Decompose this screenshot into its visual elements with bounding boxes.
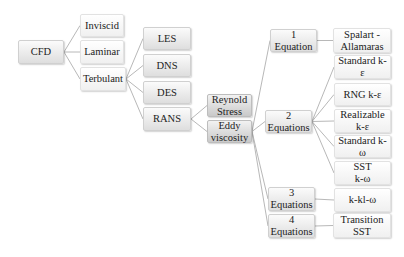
connector-eq3-kklw <box>315 199 334 200</box>
connector-eq2-real_ke <box>312 121 334 122</box>
node-dns: DNS <box>143 54 191 77</box>
node-terbulant: Terbulant <box>80 67 126 91</box>
connector-eddy_viscosity-eq4 <box>252 132 268 227</box>
connector-eq2-std_kw <box>312 122 334 147</box>
connector-terbulant-les <box>126 39 143 80</box>
node-standard-k-omega: Standard k-ω <box>334 135 391 158</box>
node-les: LES <box>143 27 191 50</box>
connector-rans-eddy_viscosity <box>191 119 207 132</box>
node-rans: RANS <box>143 107 191 131</box>
node-reynold-stress: Reynold Stress <box>207 94 252 117</box>
node-laminar: Laminar <box>80 40 124 64</box>
connector-eq4-trans_sst <box>315 226 333 227</box>
node-realizable-k-epsilon: Realizable k-ε <box>334 109 391 133</box>
connector-rans-reynold_stress <box>191 106 207 120</box>
node-eddy-viscosity: Eddy viscosity <box>207 120 252 143</box>
connector-cfd-inviscid <box>64 26 80 53</box>
connector-eq2-rng_ke <box>312 95 334 122</box>
node-transition-sst: Transition SST <box>333 213 391 238</box>
node-1-equation: 1 Equation <box>270 29 317 52</box>
node-4-equations: 4 Equations <box>268 214 315 238</box>
connector-cfd-terbulant <box>64 52 80 79</box>
node-cfd: CFD <box>18 40 64 64</box>
connector-eq2-sst_kw <box>312 122 334 174</box>
node-des: DES <box>143 81 191 104</box>
cfd-model-tree: CFD Inviscid Laminar Terbulant LES DNS D… <box>0 0 404 257</box>
node-rng-k-epsilon: RNG k-ε <box>334 83 391 106</box>
connector-eddy_viscosity-eq3 <box>252 132 268 200</box>
node-2-equations: 2 Equations <box>265 110 312 133</box>
connector-terbulant-rans <box>126 79 143 119</box>
node-3-equations: 3 Equations <box>268 187 315 211</box>
node-standard-k-epsilon: Standard k-ε <box>334 55 391 79</box>
node-inviscid: Inviscid <box>80 14 124 37</box>
node-spalart-allamaras: Spalart - Allamaras <box>333 28 391 53</box>
node-k-kl-omega: k-kl-ω <box>334 188 391 212</box>
node-sst-k-omega: SST k-ω <box>334 161 391 185</box>
connector-eq2-std_ke <box>312 67 334 122</box>
